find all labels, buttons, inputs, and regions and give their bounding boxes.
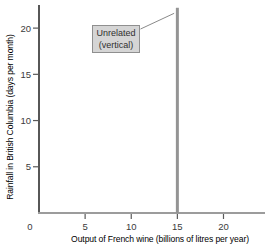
- svg-text:20: 20: [218, 221, 229, 232]
- svg-text:0: 0: [27, 221, 32, 232]
- svg-text:10: 10: [20, 115, 31, 126]
- y-axis-title: Rainfall in British Columbia (days per m…: [5, 34, 15, 200]
- svg-text:5: 5: [26, 161, 31, 172]
- x-axis-title: Output of French wine (billions of litre…: [53, 234, 267, 244]
- svg-text:5: 5: [82, 221, 87, 232]
- svg-text:15: 15: [172, 221, 183, 232]
- annotation-line-1: Unrelated: [96, 27, 135, 39]
- annotation-line-2: (vertical): [99, 39, 134, 51]
- unrelated-variables-chart: 510152051015200 Rainfall in British Colu…: [0, 0, 267, 251]
- svg-text:15: 15: [20, 69, 31, 80]
- svg-text:10: 10: [126, 221, 137, 232]
- svg-text:20: 20: [20, 23, 31, 34]
- annotation-box: Unrelated (vertical): [92, 25, 140, 53]
